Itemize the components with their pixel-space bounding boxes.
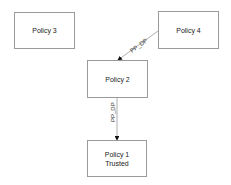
node-label: Policy 3 — [32, 26, 57, 35]
edge-label: PP_DP — [129, 37, 148, 53]
node-policy4[interactable]: Policy 4 — [158, 11, 219, 49]
edge-policy2-to-policy1: PP_DP — [110, 97, 117, 140]
node-label: Policy 1 — [105, 150, 130, 159]
edge-label: PP_DP — [110, 102, 116, 122]
node-policy1[interactable]: Policy 1 Trusted — [87, 140, 147, 177]
node-sublabel: Trusted — [105, 159, 128, 168]
node-label: Policy 4 — [176, 26, 201, 35]
node-policy3[interactable]: Policy 3 — [14, 12, 75, 49]
node-policy2[interactable]: Policy 2 — [87, 60, 148, 98]
edge-policy4-to-policy2: PP_DP — [118, 31, 158, 60]
node-label: Policy 2 — [105, 75, 130, 84]
